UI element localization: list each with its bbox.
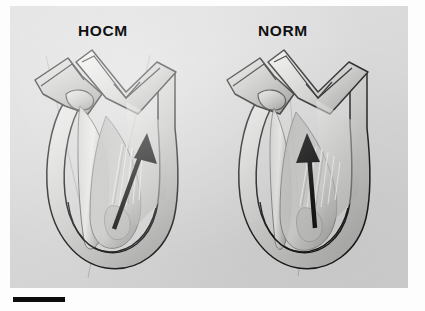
scale-bar xyxy=(13,297,65,302)
norm-heart-illustration xyxy=(10,6,408,288)
panel-label-norm: NORM xyxy=(258,22,308,40)
panel-label-hocm: HOCM xyxy=(78,22,128,40)
norm-panel-group xyxy=(227,50,370,276)
photograph-plate xyxy=(10,6,408,288)
figure-root: HOCM NORM xyxy=(0,0,425,311)
